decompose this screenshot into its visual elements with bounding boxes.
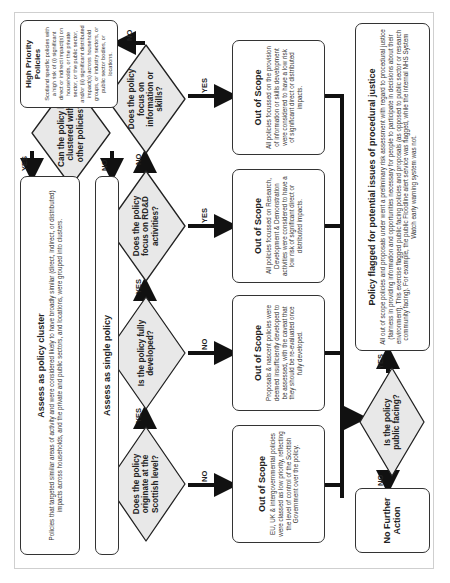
box-flagged-procedural-justice: Policy flagged for potential issues of p… [355, 23, 430, 351]
label-yes: YES [376, 354, 385, 369]
decision-text: Does the policy originate at the Scottis… [123, 446, 169, 522]
box-description: EU, UK & intergovernmental policies were… [269, 431, 300, 537]
box-title: Out of Scope [253, 301, 263, 405]
label-yes: YES [200, 208, 209, 223]
label-yes: YES [20, 156, 29, 171]
label-yes: YES [134, 279, 143, 294]
box-title: Policy flagged for potential issues of p… [367, 29, 377, 345]
box-description: All policies focussed on the provision o… [265, 46, 304, 149]
decision-text: Does the policy focus on information or … [123, 63, 169, 135]
box-title: Out of Scope [253, 175, 263, 277]
decision-text: Does the policy focus on RD&D activities… [123, 190, 169, 263]
decision-text: Is the policy public facing? [373, 386, 411, 458]
box-assess-cluster: Assess as policy cluster Policies that t… [20, 176, 80, 555]
box-out-of-scope-info: Out of Scope All policies focussed on th… [232, 40, 325, 155]
box-description: All out of scope policies and proposals … [379, 29, 418, 345]
label-no: NO [125, 30, 134, 41]
label-yes: YES [134, 408, 143, 423]
box-description: All policies focussed on Research, Devel… [265, 175, 304, 277]
label-no: NO [376, 475, 385, 486]
box-title: Out of Scope [253, 46, 263, 149]
box-title: No Further Action [382, 494, 402, 547]
label-no: NO [100, 160, 109, 171]
box-description: Scotland specific policies with a high r… [44, 25, 114, 103]
box-description: Policies that targeted similar areas of … [48, 182, 64, 549]
box-title: Assess as policy cluster [36, 182, 46, 549]
box-title: Assess as single policy [102, 182, 112, 549]
label-no: NO [134, 154, 143, 165]
label-no: NO [200, 339, 209, 350]
decision-text: Is the policy fully developed? [123, 316, 169, 390]
box-high-priority: High Priority Policies Scotland specific… [20, 20, 118, 108]
label-no: NO [200, 471, 209, 482]
box-out-of-scope-eu: Out of Scope EU, UK & intergovernmental … [232, 425, 325, 543]
label-yes: YES [200, 78, 209, 93]
box-out-of-scope-nascent: Out of Scope Proposals & nascent policie… [232, 295, 325, 411]
box-out-of-scope-rdd: Out of Scope All policies focussed on Re… [232, 169, 325, 283]
decision-public-facing: Is the policy public facing? [358, 366, 426, 478]
decision-text: Can the policy be clustered with other p… [48, 98, 94, 168]
box-title: Out of Scope [257, 431, 267, 537]
flowchart-canvas: Does the policy originate at the Scottis… [0, 0, 450, 583]
box-title: High Priority Policies [24, 25, 42, 103]
box-assess-single-policy: Assess as single policy [95, 176, 119, 555]
box-description: Proposals & nascent policies were deemed… [265, 301, 304, 405]
box-no-further-action: No Further Action [355, 488, 430, 553]
